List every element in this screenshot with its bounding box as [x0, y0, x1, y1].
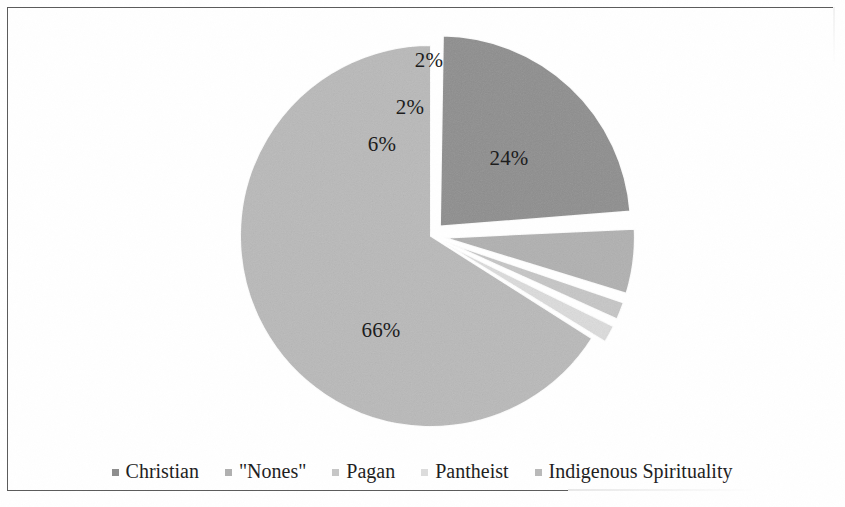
pie-slice-value-label: 2% — [396, 97, 424, 118]
pie-slice-value-label: 24% — [489, 148, 528, 169]
legend-item-label: "Nones" — [239, 461, 306, 481]
legend-item-label: Pantheist — [435, 461, 508, 481]
legend-swatch-icon — [421, 469, 428, 476]
legend-item[interactable]: Christian — [112, 461, 199, 481]
legend-swatch-icon — [112, 469, 119, 476]
legend-item-label: Indigenous Spirituality — [549, 461, 733, 481]
chart-legend: Christian"Nones"PaganPantheistIndigenous… — [8, 451, 836, 491]
chart-frame: 24%6%2%2%66% Christian"Nones"PaganPanthe… — [7, 7, 835, 491]
legend-item-label: Pagan — [346, 461, 395, 481]
legend-item[interactable]: Pagan — [332, 461, 395, 481]
legend-swatch-icon — [225, 469, 232, 476]
legend-item[interactable]: "Nones" — [225, 461, 306, 481]
legend-item[interactable]: Indigenous Spirituality — [535, 461, 733, 481]
pie-slice-value-label: 2% — [415, 50, 443, 71]
pie-chart-plot-area: 24%6%2%2%66% — [8, 8, 836, 448]
legend-item-label: Christian — [126, 461, 199, 481]
pie-slice-value-label: 66% — [361, 320, 400, 341]
legend-swatch-icon — [535, 469, 542, 476]
pie-slice-grain — [440, 36, 630, 227]
pie-chart — [8, 8, 836, 448]
legend-swatch-icon — [332, 469, 339, 476]
legend-item[interactable]: Pantheist — [421, 461, 508, 481]
pie-slice-value-label: 6% — [368, 134, 396, 155]
